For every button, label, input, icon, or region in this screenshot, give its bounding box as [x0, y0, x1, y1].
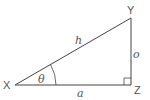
angle-label-theta: θ — [38, 73, 45, 86]
angle-theta-arc — [51, 65, 57, 86]
hypotenuse-line — [15, 18, 131, 85]
vertex-label-z: Z — [134, 84, 141, 96]
right-angle-marker — [124, 78, 131, 85]
side-label-opposite: o — [133, 48, 140, 61]
side-label-adjacent: a — [77, 87, 84, 100]
right-triangle-diagram: X Y Z h o a θ — [0, 0, 150, 100]
vertex-label-y: Y — [127, 4, 135, 16]
side-label-hypotenuse: h — [75, 34, 82, 47]
vertex-label-x: X — [3, 79, 11, 91]
